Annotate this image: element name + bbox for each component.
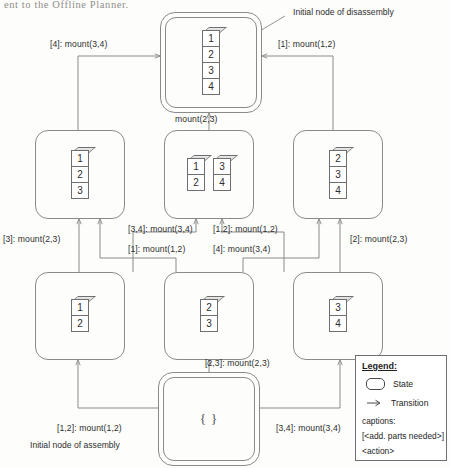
state-inner-border: 1 2 3 4 bbox=[165, 17, 257, 108]
state-inner-border: { } bbox=[163, 377, 255, 461]
legend-captions-line1: [<add. parts needed>] bbox=[362, 431, 441, 442]
annotation-initial-disassembly: Initial node of disassembly bbox=[293, 7, 394, 17]
block: 3 bbox=[200, 315, 218, 332]
block-stack: 1 2 3 4 bbox=[202, 31, 220, 95]
edge-label-12-to-123: [3]: mount(2,3) bbox=[3, 234, 60, 244]
edge-label-34-to-midcenter: [1,2]: mount(1,2) bbox=[213, 224, 278, 234]
block: 1 bbox=[202, 30, 220, 47]
state-contents-1234: 1 2 3 4 bbox=[166, 18, 256, 107]
block: 2 bbox=[202, 46, 220, 63]
state-contents-123: 1 2 3 bbox=[36, 131, 124, 218]
block: 4 bbox=[329, 182, 347, 199]
edge-label-34-to-234: [4]: mount(3,4) bbox=[213, 244, 270, 254]
state-contents-23: 2 3 bbox=[165, 273, 253, 359]
state-contents-12: 1 2 bbox=[36, 273, 124, 359]
state-node-1234[interactable]: 1 2 3 4 bbox=[160, 12, 262, 113]
state-node-12[interactable]: 1 2 bbox=[35, 272, 125, 360]
legend-state-label: State bbox=[393, 379, 413, 389]
legend-transition-label: Transition bbox=[391, 398, 428, 408]
block: 2 bbox=[71, 315, 89, 332]
legend-box: Legend: State Transition captions: [<add… bbox=[355, 355, 447, 461]
state-node-234[interactable]: 2 3 4 bbox=[293, 130, 383, 219]
edge-label-12-to-midcenter: [3,4]: mount(3,4) bbox=[128, 224, 193, 234]
edge-label-123-to-1234: [4]: mount(3,4) bbox=[50, 39, 107, 49]
state-contents-12-34: 1 2 3 4 bbox=[165, 131, 253, 218]
diagram-canvas: ent to the Offline Planner. bbox=[0, 0, 450, 468]
edge-label-empty-to-34: [3,4]: mount(3,4) bbox=[276, 423, 341, 433]
block-stack: 1 2 bbox=[71, 300, 89, 332]
legend-captions-title: captions: bbox=[362, 416, 441, 427]
state-shape-icon bbox=[366, 378, 385, 390]
state-node-123[interactable]: 1 2 3 bbox=[35, 130, 125, 219]
block-stack: 2 3 bbox=[200, 300, 218, 332]
state-contents-empty: { } bbox=[164, 378, 254, 460]
block: 1 bbox=[71, 299, 89, 316]
edge-label-empty-to-23: [2,3]: mount(2,3) bbox=[205, 358, 270, 368]
annotation-initial-assembly: Initial node of assembly bbox=[30, 440, 120, 450]
block: 2 bbox=[71, 166, 89, 183]
edge-label-23-to-234: [2]: mount(2,3) bbox=[350, 234, 407, 244]
state-node-empty[interactable]: { } bbox=[158, 372, 260, 466]
legend-title: Legend: bbox=[362, 361, 441, 371]
block: 3 bbox=[202, 62, 220, 79]
edge-label-23-to-123: [1]: mount(1,2) bbox=[128, 244, 185, 254]
block: 4 bbox=[329, 315, 347, 332]
block-stack: 2 3 4 bbox=[329, 151, 347, 199]
block: 1 bbox=[187, 158, 205, 175]
block: 3 bbox=[71, 182, 89, 199]
state-contents-34: 3 4 bbox=[294, 273, 382, 359]
state-node-34[interactable]: 3 4 bbox=[293, 272, 383, 360]
block: 4 bbox=[213, 174, 231, 191]
block-stack: 3 4 bbox=[329, 300, 347, 332]
block: 2 bbox=[187, 174, 205, 191]
block: 3 bbox=[329, 166, 347, 183]
block-stack: 3 4 bbox=[213, 159, 231, 191]
legend-captions-line2: <action> bbox=[362, 446, 441, 457]
block: 2 bbox=[329, 150, 347, 167]
state-node-23[interactable]: 2 3 bbox=[164, 272, 254, 360]
block: 1 bbox=[71, 150, 89, 167]
arrow-icon bbox=[366, 398, 383, 408]
edge-label-234-to-1234: [1]: mount(1,2) bbox=[278, 39, 335, 49]
empty-set-label: { } bbox=[200, 411, 219, 427]
legend-row-transition: Transition bbox=[366, 398, 441, 408]
block: 3 bbox=[329, 299, 347, 316]
edge-label-empty-to-12: [1,2]: mount(1,2) bbox=[57, 423, 122, 433]
block: 2 bbox=[200, 299, 218, 316]
edge-label-mid-to-top: mount(2,3) bbox=[175, 114, 218, 124]
block: 3 bbox=[213, 158, 231, 175]
legend-row-state: State bbox=[366, 378, 441, 390]
block-stack: 1 2 bbox=[187, 159, 205, 191]
state-node-12-34[interactable]: 1 2 3 4 bbox=[164, 130, 254, 219]
state-contents-234: 2 3 4 bbox=[294, 131, 382, 218]
block: 4 bbox=[202, 78, 220, 95]
block-stack: 1 2 3 bbox=[71, 151, 89, 199]
